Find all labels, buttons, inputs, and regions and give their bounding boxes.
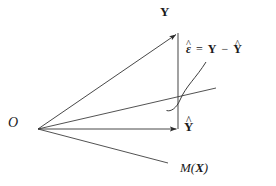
label-y-vector: Y [160, 5, 169, 18]
residual-accent: ^ [186, 39, 191, 50]
label-subspace-mx: M(X) [180, 161, 208, 174]
subspace-m-text: M [180, 160, 191, 175]
equals-sign: = [194, 42, 205, 56]
eq-term-yhat-accent: ^ [233, 39, 242, 50]
y-vector-text: Y [160, 4, 169, 19]
y-hat-group: ^ Y [184, 120, 193, 133]
label-y-hat: ^ Y [184, 120, 193, 133]
plane-lower-edge [38, 129, 168, 163]
label-residual-equation: ^ ε = Y − ^ Y [186, 43, 242, 55]
ols-projection-diagram: O Y ^ Y ^ ε = Y − ^ Y M(X) [0, 0, 276, 186]
eq-term-yhat-group: ^ Y [233, 43, 242, 55]
origin-text: O [8, 115, 18, 130]
y-hat-accent: ^ [184, 115, 193, 126]
minus-sign: − [219, 42, 230, 56]
eq-term-y: Y [208, 42, 217, 56]
residual-eps-group: ^ ε [186, 43, 191, 55]
vector-y-line [38, 35, 176, 130]
diagram-canvas [0, 0, 276, 186]
label-origin: O [8, 116, 18, 130]
subspace-close-paren: ) [204, 160, 208, 175]
subspace-x-text: X [195, 160, 204, 175]
residual-leader-curve [167, 62, 207, 111]
